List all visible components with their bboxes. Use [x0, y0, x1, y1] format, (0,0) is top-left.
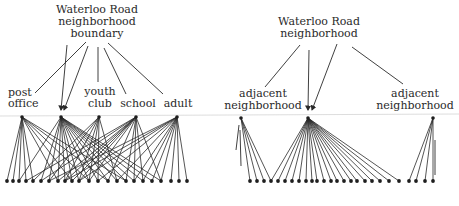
edge-waterloo_node — [271, 118, 308, 181]
right-title-line-2: neighborhood — [278, 28, 360, 40]
leaf-node — [329, 179, 333, 183]
waterloo-to-adjacent-right-line — [352, 47, 403, 84]
leaf-node — [132, 179, 136, 183]
leaf-node — [63, 179, 67, 183]
leaf-node — [141, 179, 145, 183]
leaf-node — [276, 179, 280, 183]
leaf-node — [56, 179, 60, 183]
hub-node-adult — [175, 115, 179, 119]
leaf-node — [310, 179, 314, 183]
edge-adult — [161, 117, 177, 181]
adult-line-1: adult — [164, 98, 193, 110]
waterloo-arrow-2 — [312, 44, 337, 110]
edge-waterloo_node — [285, 118, 308, 181]
leaf-node — [169, 179, 173, 183]
edge-waterloo_node — [308, 118, 344, 181]
leaf-node — [431, 179, 435, 183]
leaf-node — [363, 179, 367, 183]
leaf-node — [315, 179, 319, 183]
leaf-node — [11, 179, 15, 183]
sociogram-figure: Waterloo Road neighborhood boundary Wate… — [0, 0, 459, 206]
boundary-to-post-office-line — [35, 42, 86, 93]
leaf-node — [262, 179, 266, 183]
edge-waterloo_node — [308, 118, 372, 181]
leaf-node — [159, 179, 163, 183]
leaf-node — [290, 179, 294, 183]
hub-node-waterloo_node — [306, 116, 310, 120]
edge-waterloo_node — [308, 118, 389, 181]
edge-waterloo_node — [308, 118, 380, 181]
leaf-node — [349, 179, 353, 183]
leaf-node — [87, 179, 91, 183]
adjacent-left-label: adjacent neighborhood — [224, 88, 302, 112]
leaf-node — [106, 179, 110, 183]
leaf-node — [304, 179, 308, 183]
post-office-line-2: office — [8, 98, 39, 109]
leaf-node — [378, 179, 382, 183]
leaf-node — [255, 179, 259, 183]
hub-node-school — [134, 115, 138, 119]
hub-node-adjacent_right — [431, 116, 435, 120]
leaf-node — [96, 179, 100, 183]
right-title-label: Waterloo Road neighborhood — [278, 16, 360, 40]
leaf-node — [322, 179, 326, 183]
leaf-node — [297, 179, 301, 183]
edge-adjacent_left — [241, 118, 264, 181]
leaf-node — [342, 179, 346, 183]
leaf-node — [39, 179, 43, 183]
leaf-node — [177, 179, 181, 183]
leaf-node — [370, 179, 374, 183]
leaf-node — [31, 179, 35, 183]
boundary-arrow-1 — [61, 45, 67, 110]
leaf-node — [283, 179, 287, 183]
stray-line-left-2 — [240, 130, 241, 166]
left-title-line-3: boundary — [56, 28, 138, 40]
leaf-node — [407, 179, 411, 183]
adjacent-right-line-2: neighborhood — [376, 100, 454, 112]
leaf-node — [17, 179, 21, 183]
leaf-node — [397, 179, 401, 183]
leaf-node — [387, 179, 391, 183]
leaf-node — [124, 179, 128, 183]
leaf-node — [24, 179, 28, 183]
edge-adult — [98, 117, 177, 181]
youth-club-line-2: club — [84, 98, 115, 110]
network-edges — [7, 117, 433, 181]
page-rule-line — [0, 114, 459, 116]
school-label: school — [120, 98, 156, 110]
waterloo-to-adjacent-left-line — [265, 45, 300, 87]
waterloo-arrow-1 — [308, 50, 309, 110]
leaf-node — [355, 179, 359, 183]
leaf-node — [150, 179, 154, 183]
hub-node-adjacent_left — [239, 116, 243, 120]
post-office-label: post office — [8, 87, 39, 109]
leaf-node — [423, 179, 427, 183]
hub-node-youth_club — [97, 115, 101, 119]
edge-youth_club — [98, 117, 99, 181]
edge-waterloo_node — [308, 118, 365, 181]
leaf-node — [185, 179, 189, 183]
boundary-to-adult-line — [108, 43, 163, 94]
leaf-node — [248, 179, 252, 183]
adjacent-left-line-2: neighborhood — [224, 100, 302, 112]
hub-node-post_office — [20, 115, 24, 119]
leaf-node — [47, 179, 51, 183]
leaf-node — [70, 179, 74, 183]
leaf-node — [414, 179, 418, 183]
edge-adjacent_right — [416, 118, 433, 181]
leaf-node — [269, 179, 273, 183]
youth-club-label: youth club — [84, 86, 115, 110]
left-title-label: Waterloo Road neighborhood boundary — [56, 4, 138, 40]
hub-node-boundary_node — [59, 115, 63, 119]
stray-line-left-1 — [236, 125, 239, 150]
leaf-node — [5, 179, 9, 183]
school-line-1: school — [120, 98, 156, 110]
adjacent-right-label: adjacent neighborhood — [376, 88, 454, 112]
leaf-node — [115, 179, 119, 183]
leaf-node — [335, 179, 339, 183]
leaf-node — [77, 179, 81, 183]
adult-label: adult — [164, 98, 193, 110]
